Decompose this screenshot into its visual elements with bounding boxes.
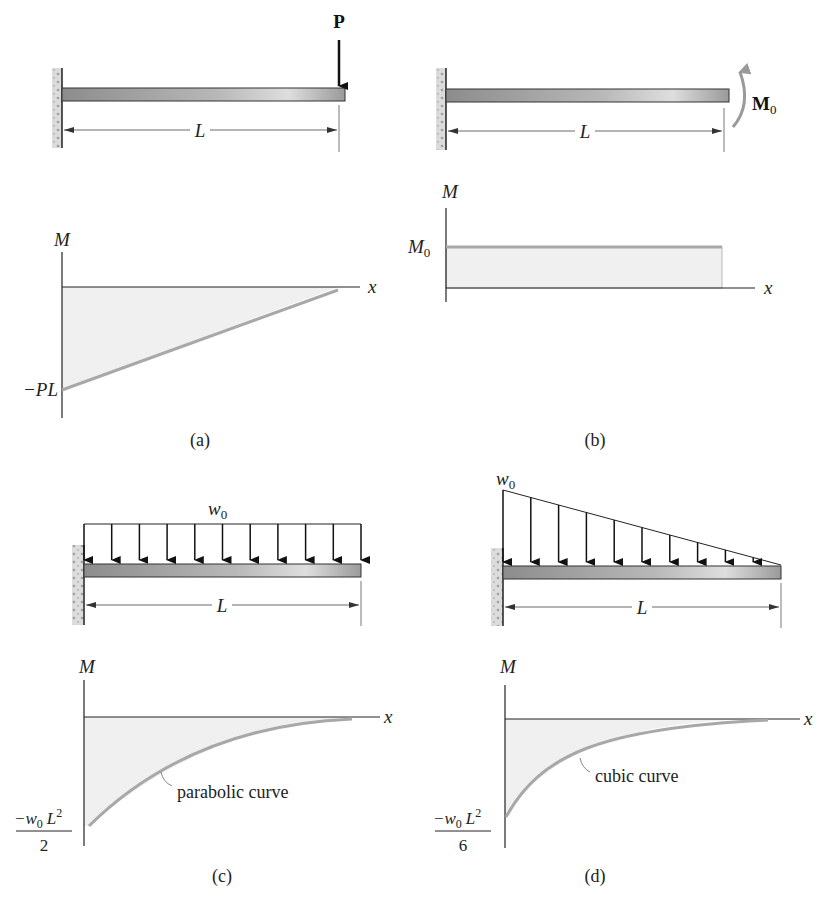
panel-d-beam-sketch: w0 L <box>491 468 781 628</box>
svg-text:6: 6 <box>459 836 468 855</box>
curve-label-leader <box>580 758 590 772</box>
load-label: w0 <box>496 468 515 492</box>
fixed-wall-support <box>72 545 84 625</box>
max-moment-label: −w0L2 2 <box>14 806 72 855</box>
x-axis-label: x <box>367 276 377 297</box>
y-axis-label: M <box>53 229 71 250</box>
y-axis-label: M <box>499 656 517 677</box>
uniform-load-arrows-icon <box>84 524 361 560</box>
fixed-wall-support <box>52 68 62 148</box>
x-axis-label: x <box>763 277 773 298</box>
x-axis-label: x <box>383 706 393 727</box>
max-moment-label: −w0L2 6 <box>433 806 491 855</box>
svg-text:−w0L2: −w0L2 <box>433 806 481 831</box>
panel-b: M0 L M x M0 (b) <box>407 68 776 451</box>
span-label: L <box>579 121 591 142</box>
couple-moment-arrow-icon <box>733 72 745 127</box>
load-label: w0 <box>208 498 227 522</box>
panel-c-moment-diagram: parabolic curve M x −w0L2 2 <box>14 656 393 855</box>
span-label: L <box>194 120 206 141</box>
triangular-load-arrows-icon <box>503 490 753 562</box>
span-label: L <box>216 595 228 616</box>
panel-b-beam-sketch: M0 L <box>436 68 776 152</box>
beam <box>84 564 361 577</box>
x-axis-label: x <box>803 708 813 729</box>
svg-text:2: 2 <box>40 836 49 855</box>
svg-text:−w0L2: −w0L2 <box>14 806 62 831</box>
panel-caption: (d) <box>585 866 606 887</box>
panel-c: w0 L parabolic curve M x −w0L2 2 (c) <box>14 498 393 887</box>
panel-caption: (c) <box>212 866 232 887</box>
load-label: P <box>333 11 345 32</box>
y-axis-label: M <box>441 181 459 202</box>
beam <box>446 89 729 102</box>
beam <box>503 566 781 579</box>
max-moment-label: M0 <box>407 236 430 260</box>
curve-label-leader <box>161 772 172 786</box>
panel-a-beam-sketch: P L <box>52 11 345 152</box>
beam <box>62 88 345 101</box>
span-label: L <box>636 597 648 618</box>
panel-b-moment-diagram: M x M0 <box>407 181 773 302</box>
curve-label: parabolic curve <box>177 782 288 802</box>
y-axis-label: M <box>78 656 96 677</box>
panel-c-beam-sketch: w0 L <box>72 498 361 626</box>
panel-caption: (a) <box>190 430 210 451</box>
fixed-wall-support <box>436 68 446 150</box>
fixed-wall-support <box>491 548 503 626</box>
curve-label: cubic curve <box>595 766 678 786</box>
panel-a: P L M x −PL (a) <box>23 11 377 451</box>
moment-area-fill <box>446 247 722 288</box>
moment-area-fill <box>84 717 352 826</box>
panel-d: w0 L cubic curve M x −w0L2 6 (d) <box>433 468 813 887</box>
max-moment-label: −PL <box>23 379 58 400</box>
cantilever-moment-diagrams-figure: P L M x −PL (a) M0 L <box>0 0 830 910</box>
panel-a-moment-diagram: M x −PL <box>23 229 377 418</box>
panel-d-moment-diagram: cubic curve M x −w0L2 6 <box>433 656 813 855</box>
load-label: M0 <box>752 93 776 117</box>
panel-caption: (b) <box>585 430 606 451</box>
